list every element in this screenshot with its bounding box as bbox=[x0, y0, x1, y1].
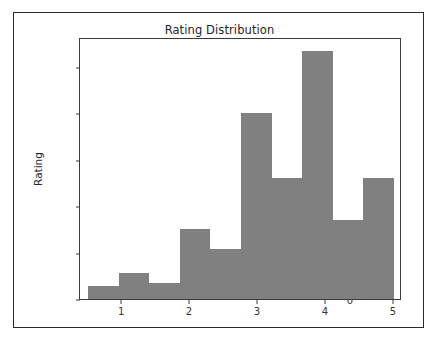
histogram-bar bbox=[241, 113, 272, 299]
x-axis-tick-mark bbox=[324, 300, 325, 304]
plot-area bbox=[79, 38, 401, 300]
x-axis-tick-label: 1 bbox=[118, 306, 124, 317]
histogram-bars bbox=[80, 39, 400, 299]
histogram-bar bbox=[363, 178, 394, 299]
histogram-bar bbox=[88, 286, 119, 299]
histogram-bar bbox=[210, 249, 241, 299]
histogram-bar bbox=[272, 178, 303, 299]
y-axis-label: Rating bbox=[32, 152, 44, 186]
x-axis-tick-label: 3 bbox=[254, 306, 260, 317]
histogram-bar bbox=[302, 51, 333, 299]
figure-frame: Rating Distribution Rating 0500010000150… bbox=[13, 12, 424, 328]
x-axis-tick-mark bbox=[256, 300, 257, 304]
histogram-bar bbox=[149, 283, 180, 299]
x-axis-tick-label: 5 bbox=[390, 306, 396, 317]
histogram-bar bbox=[180, 229, 211, 299]
x-axis-tick-label: 2 bbox=[186, 306, 192, 317]
histogram-bar bbox=[333, 220, 364, 299]
x-axis-tick-mark bbox=[189, 300, 190, 304]
histogram-bar bbox=[119, 273, 150, 299]
chart-title: Rating Distribution bbox=[14, 23, 425, 37]
x-axis-tick-mark bbox=[392, 300, 393, 304]
x-axis-tick-label: 4 bbox=[322, 306, 328, 317]
x-axis-tick-mark bbox=[121, 300, 122, 304]
